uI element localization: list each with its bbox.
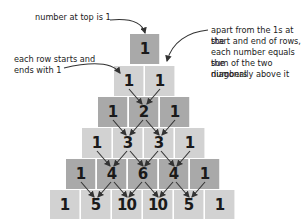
cell-r3-c1: 3: [113, 128, 143, 158]
cell-r2-c0: 1: [98, 97, 128, 127]
annotation-edges-line2: ends with 1: [14, 65, 61, 76]
cell-r4-c1: 4: [97, 159, 127, 189]
arrow-top-icon: [110, 20, 145, 33]
annotation-edges-line1: each row starts and: [14, 54, 95, 65]
cell-r4-c4: 1: [190, 159, 220, 189]
arrow-sum-icon: [167, 30, 208, 61]
cell-r0-c0: 1: [130, 34, 160, 64]
cell-r4-c3: 4: [159, 159, 189, 189]
cell-r5-c5: 1: [205, 190, 235, 219]
annotation-sum-line2: start and end of rows,: [211, 36, 301, 47]
cell-r2-c2: 1: [160, 97, 190, 127]
cell-r5-c3: 10: [143, 190, 173, 219]
cell-r3-c3: 1: [175, 128, 205, 158]
cell-r3-c0: 1: [82, 128, 112, 158]
cell-r5-c4: 5: [174, 190, 204, 219]
cell-r2-c1: 2: [129, 97, 159, 127]
cell-r4-c2: 6: [128, 159, 158, 189]
cell-r1-c1: 1: [145, 66, 175, 96]
cell-r1-c0: 1: [114, 66, 144, 96]
annotation-top: number at top is 1: [35, 12, 111, 23]
annotation-sum-line5: diagonally above it: [211, 69, 289, 80]
cell-r5-c2: 10: [112, 190, 142, 219]
cell-r3-c2: 3: [144, 128, 174, 158]
cell-r4-c0: 1: [66, 159, 96, 189]
cell-r5-c1: 5: [81, 190, 111, 219]
arrow-edges-icon: [64, 64, 120, 73]
cell-r5-c0: 1: [50, 190, 80, 219]
